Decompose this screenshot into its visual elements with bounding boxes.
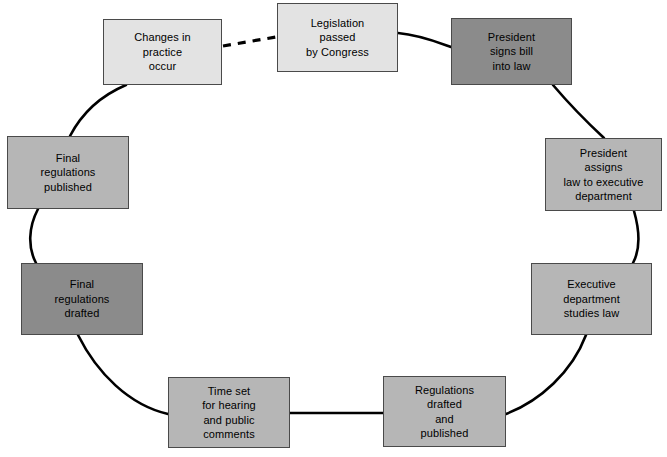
node-president-assigns-law-to-executive-department[interactable]: President assigns law to executive depar… [545, 138, 662, 211]
edge-final-drafted-to-final-published [30, 209, 38, 263]
node-time-set-for-hearing-and-public-comments[interactable]: Time set for hearing and public comments [168, 377, 290, 448]
edge-changes-to-legislation [223, 37, 276, 46]
edge-final-published-to-changes [70, 85, 126, 136]
process-cycle-diagram: Changes in practice occurLegislation pas… [0, 0, 667, 457]
edge-executive-studies-to-regulations [506, 335, 586, 414]
node-label-president-signs-bill-into-law: President signs bill into law [485, 30, 538, 74]
node-label-executive-department-studies-law: Executive department studies law [560, 277, 623, 321]
node-label-final-regulations-published: Final regulations published [38, 151, 99, 195]
node-label-final-regulations-drafted: Final regulations drafted [52, 277, 113, 321]
node-president-signs-bill-into-law[interactable]: President signs bill into law [451, 18, 572, 85]
node-legislation-passed-by-congress[interactable]: Legislation passed by Congress [277, 3, 398, 72]
node-label-time-set-for-hearing-and-public-comments: Time set for hearing and public comments [199, 384, 259, 442]
node-label-regulations-drafted-and-published: Regulations drafted and published [412, 383, 477, 441]
node-label-changes-in-practice-occur: Changes in practice occur [131, 30, 194, 74]
node-changes-in-practice-occur[interactable]: Changes in practice occur [103, 19, 222, 85]
edge-time-set-to-final-drafted [78, 335, 168, 414]
node-final-regulations-drafted[interactable]: Final regulations drafted [21, 263, 143, 335]
edge-president-assigns-to-executive-studies [633, 211, 638, 263]
node-label-president-assigns-law-to-executive-department: President assigns law to executive depar… [561, 146, 647, 204]
edge-legislation-to-president-signs [398, 33, 451, 47]
node-label-legislation-passed-by-congress: Legislation passed by Congress [303, 16, 372, 60]
node-executive-department-studies-law[interactable]: Executive department studies law [531, 263, 652, 335]
edge-president-signs-to-president-assigns [553, 85, 604, 138]
node-final-regulations-published[interactable]: Final regulations published [7, 136, 129, 209]
node-regulations-drafted-and-published[interactable]: Regulations drafted and published [383, 376, 506, 447]
